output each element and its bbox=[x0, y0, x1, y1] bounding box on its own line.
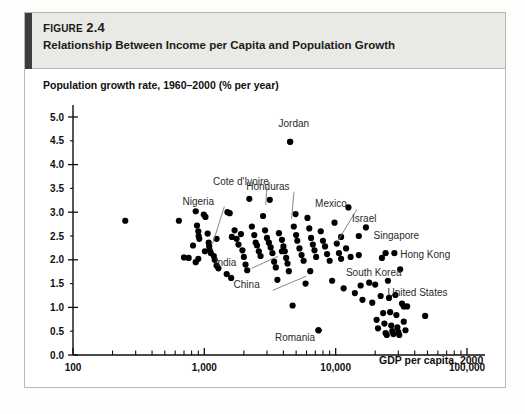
data-point bbox=[257, 253, 263, 259]
header-accent-bar bbox=[25, 13, 32, 69]
y-axis-tick-label: 0.0 bbox=[50, 350, 64, 361]
data-point bbox=[304, 215, 310, 221]
annotation-label: China bbox=[234, 279, 261, 290]
data-point bbox=[194, 222, 200, 228]
figure-container: FIGURE 2.4 Relationship Between Income p… bbox=[24, 12, 506, 388]
data-point bbox=[176, 218, 182, 224]
data-point bbox=[276, 230, 282, 236]
data-point bbox=[196, 236, 202, 242]
data-point bbox=[384, 332, 390, 338]
data-point bbox=[283, 255, 289, 261]
data-point bbox=[385, 278, 391, 284]
data-point bbox=[313, 254, 319, 260]
annotated-data-point bbox=[287, 139, 293, 145]
data-point bbox=[327, 258, 333, 264]
y-axis-tick-label: 3.5 bbox=[50, 183, 64, 194]
scatter-plot-svg: 0.00.51.01.52.02.53.03.54.04.55.01001,00… bbox=[25, 69, 507, 388]
annotation-label: Hong Kong bbox=[400, 249, 450, 260]
data-point bbox=[246, 196, 252, 202]
x-axis-tick-label: 1,000 bbox=[192, 362, 217, 373]
data-point bbox=[359, 297, 365, 303]
data-point bbox=[402, 327, 408, 333]
data-point bbox=[290, 302, 296, 308]
data-point bbox=[205, 231, 211, 237]
annotation-label: Israel bbox=[352, 213, 376, 224]
annotated-data-point bbox=[379, 255, 385, 261]
data-point bbox=[372, 281, 378, 287]
annotated-data-point bbox=[307, 268, 313, 274]
data-point bbox=[336, 250, 342, 256]
data-point bbox=[396, 332, 402, 338]
data-point bbox=[235, 241, 241, 247]
data-point bbox=[244, 267, 250, 273]
data-point bbox=[286, 268, 292, 274]
data-point bbox=[274, 277, 280, 283]
data-point bbox=[301, 258, 307, 264]
data-point bbox=[388, 322, 394, 328]
annotated-data-point bbox=[279, 248, 285, 254]
data-point bbox=[369, 300, 375, 306]
data-point bbox=[306, 225, 312, 231]
data-point bbox=[338, 256, 344, 262]
data-point bbox=[268, 244, 274, 250]
data-point bbox=[262, 227, 268, 233]
data-point bbox=[233, 236, 239, 242]
annotation-label: Mexico bbox=[315, 198, 347, 209]
data-point bbox=[318, 228, 324, 234]
y-axis-tick-label: 4.0 bbox=[50, 159, 64, 170]
annotated-data-point bbox=[356, 233, 362, 239]
data-point bbox=[324, 251, 330, 257]
data-point bbox=[296, 245, 302, 251]
data-point bbox=[271, 259, 277, 265]
data-point bbox=[363, 224, 369, 230]
data-point bbox=[242, 261, 248, 267]
data-point bbox=[269, 250, 275, 256]
y-axis-tick-label: 1.5 bbox=[50, 278, 64, 289]
figure-header: FIGURE 2.4 Relationship Between Income p… bbox=[25, 13, 505, 69]
data-point bbox=[308, 235, 314, 241]
data-point bbox=[298, 252, 304, 258]
annotations-group: JordanCote d'IvoireHondurasNigeriaMexico… bbox=[182, 118, 450, 342]
y-axis-tick-label: 2.0 bbox=[50, 254, 64, 265]
data-point bbox=[193, 208, 199, 214]
annotation-label: Honduras bbox=[246, 181, 289, 192]
data-point bbox=[310, 241, 316, 247]
data-point bbox=[232, 227, 238, 233]
annotation-label: Singapore bbox=[374, 230, 420, 241]
data-point bbox=[334, 241, 340, 247]
data-point bbox=[260, 213, 266, 219]
data-point bbox=[311, 247, 317, 253]
data-point bbox=[195, 256, 201, 262]
figure-number-value: 2.4 bbox=[86, 20, 105, 35]
data-point bbox=[293, 232, 299, 238]
data-point bbox=[348, 254, 354, 260]
annotated-data-point bbox=[315, 327, 321, 333]
data-point bbox=[302, 281, 308, 287]
data-point bbox=[378, 293, 384, 299]
data-point bbox=[190, 242, 196, 248]
data-point bbox=[393, 312, 399, 318]
figure-title: Relationship Between Income per Capita a… bbox=[43, 39, 395, 51]
data-point bbox=[356, 252, 362, 258]
data-point bbox=[375, 325, 381, 331]
data-point bbox=[322, 243, 328, 249]
data-point bbox=[291, 223, 297, 229]
data-point bbox=[254, 242, 260, 248]
annotation-label: Romania bbox=[275, 332, 315, 343]
data-point bbox=[239, 247, 245, 253]
data-point bbox=[366, 280, 372, 286]
data-point bbox=[238, 231, 244, 237]
data-point bbox=[273, 264, 279, 270]
data-point bbox=[227, 210, 233, 216]
x-axis-title: GDP per capita, 2000 bbox=[379, 354, 483, 366]
annotated-data-point bbox=[267, 197, 273, 203]
data-point bbox=[249, 223, 255, 229]
annotation-label: Jordan bbox=[279, 118, 310, 129]
data-point bbox=[391, 250, 397, 256]
figure-word-rest: IGURE bbox=[50, 23, 83, 34]
x-axis-tick-label: 100 bbox=[65, 362, 82, 373]
data-point bbox=[343, 245, 349, 251]
data-point bbox=[352, 290, 358, 296]
annotation-label: India bbox=[215, 257, 237, 268]
y-axis-tick-label: 4.5 bbox=[50, 135, 64, 146]
